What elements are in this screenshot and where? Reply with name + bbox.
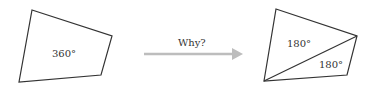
arrow-head-icon <box>232 48 243 60</box>
arrow-label: Why? <box>178 37 206 48</box>
top-triangle-label: 180° <box>287 38 311 49</box>
bottom-triangle-label: 180° <box>319 59 343 70</box>
angle-sum-diagram: 360° Why? 180° 180° <box>0 0 376 89</box>
left-quadrilateral <box>19 10 112 82</box>
left-angle-sum-label: 360° <box>52 48 76 59</box>
